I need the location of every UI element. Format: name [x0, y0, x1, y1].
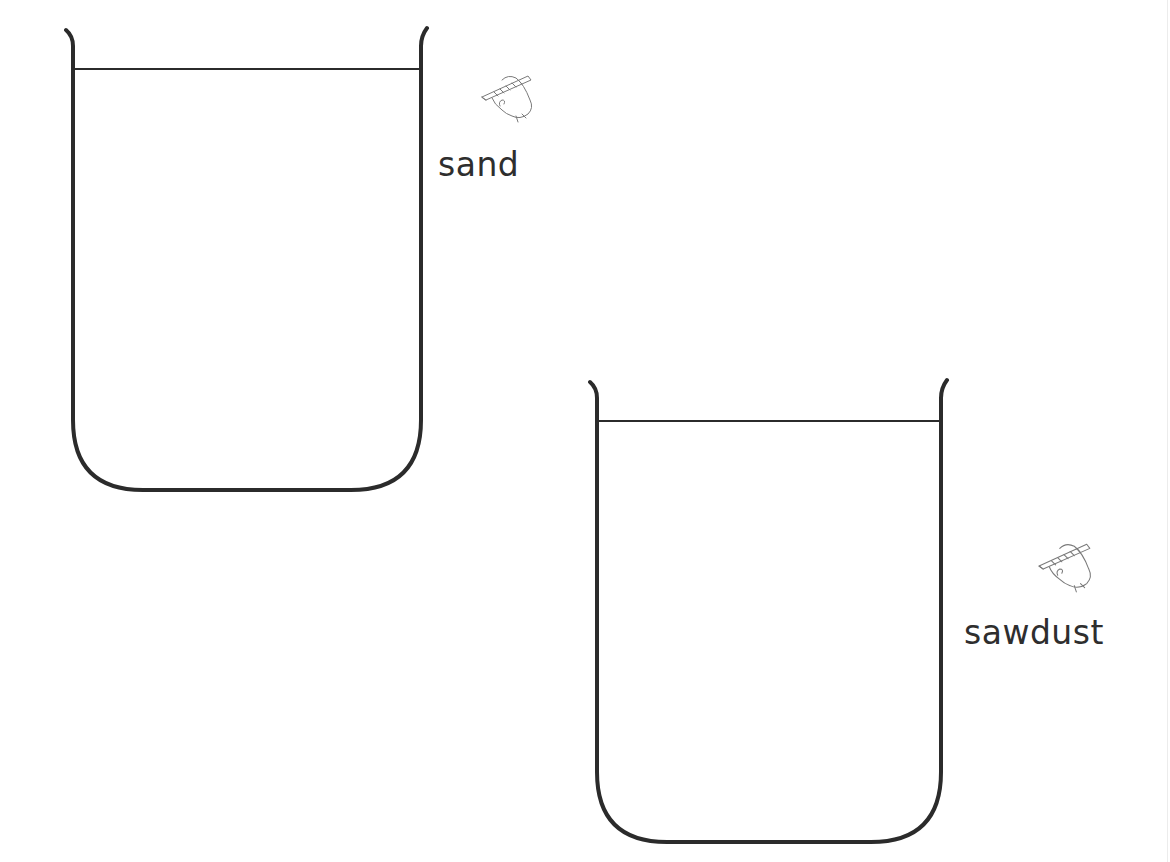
beaker-2-outline: [590, 380, 947, 842]
beaker-2: [590, 380, 947, 842]
pencil-hand-icon: [480, 70, 536, 126]
beaker-1: [66, 28, 427, 490]
beaker-1-outline: [66, 28, 427, 490]
pencil-hand-icon: [1036, 538, 1096, 596]
beaker-2-label: sawdust: [964, 616, 1104, 649]
beakers-drawing: [0, 0, 1170, 862]
beaker-1-label: sand: [438, 148, 519, 181]
